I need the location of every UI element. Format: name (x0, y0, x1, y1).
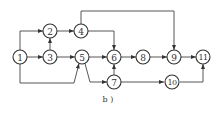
node-label: 6 (111, 53, 117, 63)
node-label: 7 (111, 78, 117, 88)
node-5: 5 (75, 50, 89, 64)
node-3: 3 (43, 50, 57, 64)
node-9: 9 (167, 50, 181, 64)
edge-1-to-2 (20, 31, 43, 50)
node-label: 10 (167, 78, 177, 87)
node-label: 8 (140, 53, 146, 63)
edge-10-to-11 (180, 64, 203, 82)
edge-5-to-7 (85, 64, 107, 83)
edge-4-to-9 (81, 11, 174, 50)
node-11: 11 (196, 50, 210, 64)
node-2: 2 (43, 24, 57, 38)
node-4: 4 (74, 24, 88, 38)
diagram-caption: b ) (103, 95, 114, 104)
node-label: 9 (171, 53, 177, 63)
node-label: 2 (47, 27, 53, 37)
node-label: 3 (47, 53, 53, 63)
node-6: 6 (107, 50, 121, 64)
node-label: 4 (78, 27, 84, 37)
node-1: 1 (13, 50, 27, 64)
edge-4-to-6 (88, 31, 114, 50)
node-8: 8 (136, 50, 150, 64)
network-diagram: 1234567891011 b ) (0, 0, 221, 113)
node-10: 10 (165, 75, 179, 89)
node-label: 5 (79, 53, 85, 63)
edge-1-to-5 (20, 64, 79, 84)
node-label: 11 (198, 53, 207, 62)
node-7: 7 (107, 75, 121, 89)
node-label: 1 (17, 53, 23, 63)
